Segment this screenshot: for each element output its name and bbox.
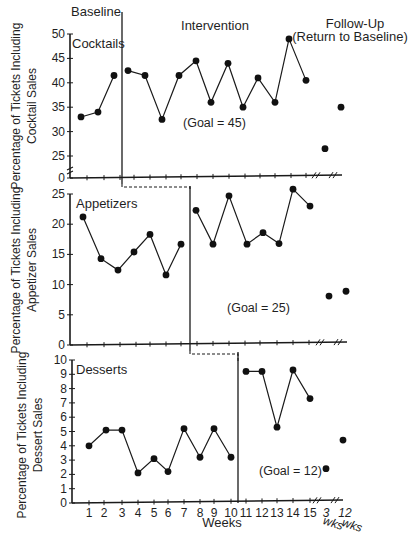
intervention-data-point — [307, 395, 314, 402]
y-axis-tick-label: 5 — [58, 308, 65, 322]
y-axis-tick-label: 25 — [52, 187, 66, 201]
intervention-data-point — [276, 240, 283, 247]
y-axis-tick-label: 1 — [60, 482, 67, 496]
x-axis-label: Weeks — [202, 515, 242, 530]
y-axis-tick-label: 8 — [60, 382, 67, 396]
baseline-data-point — [111, 72, 118, 79]
phase-label-follow-up-subtitle: (Return to Baseline) — [292, 29, 408, 44]
intervention-data-point — [286, 35, 293, 42]
y-axis-tick-label: 35 — [52, 100, 66, 114]
goal-label: (Goal = 12) — [259, 464, 322, 478]
y-axis-tick-label: 0 — [60, 496, 67, 510]
x-axis-tick-label: 2 — [101, 506, 108, 520]
x-axis-tick-label: 6 — [165, 506, 172, 520]
follow-up-unit-label: wks — [340, 515, 364, 535]
y-axis-tick-label: 3 — [60, 453, 67, 467]
goal-label: (Goal = 45) — [183, 116, 246, 130]
baseline-data-point — [147, 231, 154, 238]
goal-label: (Goal = 25) — [227, 301, 290, 315]
panel-label: Desserts — [76, 362, 128, 377]
y-axis-label: Percentage of Tickets Including — [15, 352, 29, 519]
y-axis-tick-label: 25 — [52, 149, 66, 163]
y-axis-label: Percentage of Tickets Including — [9, 23, 23, 190]
x-axis-tick-label: 7 — [181, 506, 188, 520]
intervention-data-point — [307, 203, 314, 210]
y-axis-tick-label: 0 — [58, 171, 65, 185]
baseline-data-point — [98, 255, 105, 262]
staircase-connector-1 — [122, 184, 190, 190]
x-axis-tick-label: 12 — [255, 506, 269, 520]
y-axis-tick-label: 2 — [60, 467, 67, 481]
y-axis-tick-label: 50 — [52, 27, 66, 41]
baseline-data-point — [119, 427, 126, 434]
follow-up-data-point — [326, 293, 333, 300]
x-axis-line — [70, 175, 342, 178]
intervention-line — [128, 39, 306, 120]
y-axis-label-line2: Dessert Sales — [31, 398, 45, 473]
intervention-data-point — [176, 72, 183, 79]
staircase-connector-2 — [190, 351, 238, 362]
baseline-data-point — [78, 114, 85, 121]
baseline-line — [89, 429, 231, 473]
intervention-data-point — [274, 424, 281, 431]
intervention-data-point — [240, 104, 247, 111]
intervention-data-point — [255, 75, 262, 82]
intervention-data-point — [193, 57, 200, 64]
baseline-data-point — [163, 272, 170, 279]
y-axis-tick-label: 9 — [60, 367, 67, 381]
x-axis-tick-label: 15 — [303, 506, 317, 520]
panel-label: Appetizers — [76, 196, 138, 211]
y-axis-tick-label: 4 — [60, 439, 67, 453]
phase-change-staircase — [122, 184, 238, 362]
multiple-baseline-chart: Baseline Intervention Follow-Up (Return … — [0, 0, 414, 539]
intervention-data-point — [225, 60, 232, 67]
y-axis-tick-label: 0 — [58, 338, 65, 352]
follow-up-data-point — [323, 465, 330, 472]
y-axis-tick-label: 40 — [52, 76, 66, 90]
baseline-data-point — [197, 454, 204, 461]
intervention-data-point — [290, 186, 297, 193]
follow-up-data-point — [343, 288, 350, 295]
baseline-data-point — [135, 470, 142, 477]
baseline-data-point — [86, 442, 93, 449]
x-axis-tick-label: 3 — [119, 506, 126, 520]
y-axis-tick-label: 10 — [54, 353, 68, 367]
intervention-line — [246, 370, 310, 427]
baseline-data-point — [165, 468, 172, 475]
baseline-line — [83, 217, 181, 275]
y-axis-tick-label: 5 — [60, 425, 67, 439]
follow-up-data-point — [322, 145, 329, 152]
baseline-data-point — [151, 455, 158, 462]
y-axis-tick-label: 45 — [52, 51, 66, 65]
intervention-data-point — [208, 99, 215, 106]
baseline-data-point — [178, 241, 185, 248]
x-axis-tick-label: 5 — [151, 506, 158, 520]
baseline-data-point — [95, 109, 102, 116]
baseline-data-point — [211, 425, 218, 432]
y-axis-tick-label: 20 — [52, 217, 66, 231]
intervention-data-point — [259, 368, 266, 375]
x-axis-line — [72, 500, 343, 503]
intervention-line — [196, 189, 310, 244]
baseline-data-point — [181, 425, 188, 432]
intervention-data-point — [244, 241, 251, 248]
follow-up-data-point — [338, 104, 345, 111]
x-axis-tick-label: 4 — [135, 506, 142, 520]
baseline-data-point — [80, 214, 87, 221]
intervention-data-point — [226, 192, 233, 199]
phase-label-intervention: Intervention — [181, 18, 249, 33]
x-axis-line — [70, 342, 347, 345]
intervention-data-point — [210, 241, 217, 248]
x-axis-tick-label: 14 — [286, 506, 300, 520]
panel-appetizers: 0510152025Percentage of Tickets Includin… — [9, 186, 349, 354]
intervention-data-point — [260, 229, 267, 236]
x-axis-tick-label: 1 — [86, 506, 93, 520]
intervention-data-point — [290, 367, 297, 374]
y-axis-tick-label: 10 — [52, 278, 66, 292]
x-axis-tick-label: 13 — [270, 506, 284, 520]
baseline-data-point — [115, 267, 122, 274]
baseline-data-point — [131, 249, 138, 256]
follow-up-data-point — [340, 437, 347, 444]
panel-desserts: 012345678910Percentage of Tickets Includ… — [15, 352, 346, 519]
intervention-data-point — [142, 72, 149, 79]
